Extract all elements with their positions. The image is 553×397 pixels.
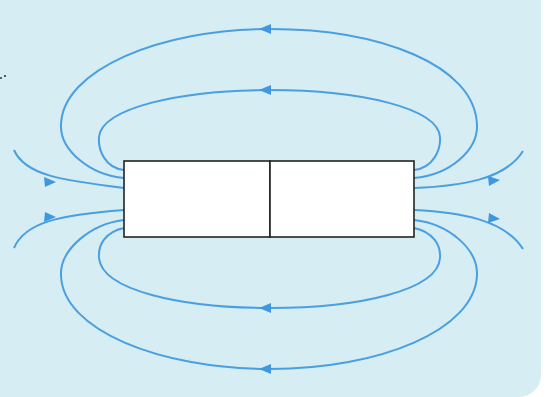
arrow-right-icon [488, 176, 500, 186]
arrow-left-icon [259, 85, 271, 95]
arrow-left-icon [259, 24, 271, 34]
bar-magnet-field-diagram [0, 0, 553, 397]
magnet-left-pole [124, 161, 270, 237]
arrow-right-icon [44, 177, 56, 187]
field-line-inner-top [99, 90, 440, 170]
field-line-outer-top [61, 29, 477, 178]
magnet-right-pole [270, 161, 414, 237]
field-line-inner-bottom [99, 228, 440, 308]
arrow-left-icon [259, 364, 271, 374]
field-line-outer-bottom [61, 220, 477, 369]
field-line-right-lower [414, 210, 523, 249]
arrow-right-icon [488, 213, 500, 223]
field-line-left-upper [14, 150, 124, 188]
stray-dot [0, 77, 2, 79]
field-line-right-upper [414, 151, 523, 188]
field-line-left-lower [14, 210, 124, 248]
arrow-left-icon [259, 303, 271, 313]
stray-dot [4, 75, 6, 77]
